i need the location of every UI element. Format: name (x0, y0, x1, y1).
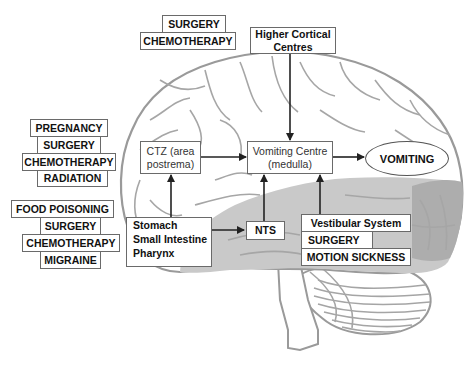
occipital-lobe (412, 180, 463, 261)
trigger-pregnancy: PREGNANCY (30, 119, 108, 137)
node-gut-stomach: Stomach (133, 218, 177, 232)
node-vomiting-centre: Vomiting Centre (medulla) (247, 141, 333, 174)
cerebellum (299, 265, 431, 335)
node-higher-cortical-line2: Centres (273, 41, 312, 53)
node-vomiting-centre-line1: Vomiting Centre (253, 145, 328, 157)
trigger-surgery-vestibular: SURGERY (301, 231, 373, 249)
trigger-surgery-2: SURGERY (40, 217, 101, 235)
node-stomach-intestine-pharynx: Stomach Small Intestine Pharynx (126, 217, 212, 267)
trigger-motion-sickness: MOTION SICKNESS (301, 248, 411, 266)
node-vestibular-system: Vestibular System (301, 214, 411, 232)
trigger-food-poisoning: FOOD POISONING (11, 200, 114, 218)
trigger-chemotherapy-2: CHEMOTHERAPY (22, 234, 120, 252)
node-ctz-line1: CTZ (area (147, 145, 195, 157)
node-ctz: CTZ (area postrema) (140, 141, 201, 174)
trigger-chemotherapy: CHEMOTHERAPY (22, 153, 116, 171)
node-higher-cortical-centres: Higher Cortical Centres (250, 27, 336, 54)
node-higher-cortical-line1: Higher Cortical (255, 28, 330, 40)
trigger-surgery: SURGERY (37, 136, 101, 154)
node-vomiting-centre-line2: (medulla) (268, 158, 312, 170)
trigger-migraine: MIGRAINE (40, 251, 101, 269)
trigger-radiation: RADIATION (37, 170, 108, 187)
node-nts: NTS (246, 221, 285, 240)
trigger-top-chemotherapy: CHEMOTHERAPY (140, 32, 236, 50)
node-vomiting: VOMITING (365, 141, 449, 176)
node-ctz-line2: postrema) (147, 158, 194, 170)
trigger-top-surgery: SURGERY (162, 15, 226, 33)
node-gut-small-intestine: Small Intestine (133, 232, 207, 246)
node-gut-pharynx: Pharynx (133, 246, 174, 260)
